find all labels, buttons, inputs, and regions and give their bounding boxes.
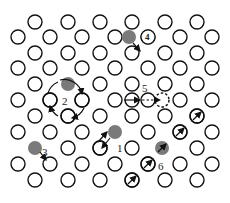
host-atom — [75, 125, 89, 139]
host-atom — [125, 15, 139, 29]
host-atom — [93, 46, 107, 60]
host-atom — [28, 173, 42, 187]
host-atom — [28, 15, 42, 29]
host-atom — [141, 61, 155, 75]
host-atom — [190, 141, 204, 155]
host-atom — [205, 30, 219, 44]
host-atom — [190, 77, 204, 91]
solute-atom — [122, 30, 136, 44]
host-atom — [61, 173, 75, 187]
host-atom — [108, 30, 122, 44]
host-atom — [205, 157, 219, 171]
host-atom — [28, 109, 42, 123]
host-atom — [205, 93, 219, 107]
host-atom — [75, 61, 89, 75]
host-atoms — [11, 15, 219, 187]
mechanism-1-exchange — [93, 132, 110, 155]
label-6: 6 — [158, 160, 164, 172]
host-atom — [173, 61, 187, 75]
host-atom — [173, 30, 187, 44]
lattice-diagram: 1 2 3 4 5 6 — [0, 0, 230, 203]
host-atom — [158, 173, 172, 187]
label-5: 5 — [142, 82, 148, 94]
host-atom — [108, 157, 122, 171]
host-atom — [173, 93, 187, 107]
host-atom — [11, 93, 25, 107]
host-atom — [11, 125, 25, 139]
label-1: 1 — [117, 142, 123, 154]
host-atom — [93, 15, 107, 29]
host-atom — [108, 93, 122, 107]
host-atom — [11, 157, 25, 171]
host-atom — [158, 15, 172, 29]
host-atom — [108, 61, 122, 75]
solute-atom — [108, 125, 122, 139]
host-atom — [190, 15, 204, 29]
host-atom — [43, 30, 57, 44]
host-atom — [158, 109, 172, 123]
label-4: 4 — [145, 32, 150, 42]
host-atom — [93, 109, 107, 123]
host-atom — [61, 141, 75, 155]
host-atom — [158, 46, 172, 60]
host-atom — [125, 141, 139, 155]
mechanism-5-jump — [124, 93, 169, 107]
host-atom — [75, 157, 89, 171]
host-atom — [75, 30, 89, 44]
host-atom — [173, 157, 187, 171]
host-atom — [93, 77, 107, 91]
host-atom — [61, 46, 75, 60]
label-2: 2 — [62, 95, 68, 107]
solute-atom — [28, 141, 42, 155]
host-atom — [93, 173, 107, 187]
host-atom — [141, 125, 155, 139]
host-atom — [125, 109, 139, 123]
host-atom — [11, 30, 25, 44]
host-atom — [158, 77, 172, 91]
host-atom — [61, 15, 75, 29]
host-atom — [125, 77, 139, 91]
mechanism-labels: 1 2 3 4 5 6 — [42, 30, 164, 172]
host-atom — [11, 61, 25, 75]
host-atom — [28, 77, 42, 91]
host-atom — [205, 125, 219, 139]
label-3: 3 — [42, 146, 48, 158]
host-atom — [190, 46, 204, 60]
host-atom — [43, 125, 57, 139]
host-atom — [205, 61, 219, 75]
host-atom — [43, 61, 57, 75]
host-atom — [28, 46, 42, 60]
host-atom — [190, 173, 204, 187]
